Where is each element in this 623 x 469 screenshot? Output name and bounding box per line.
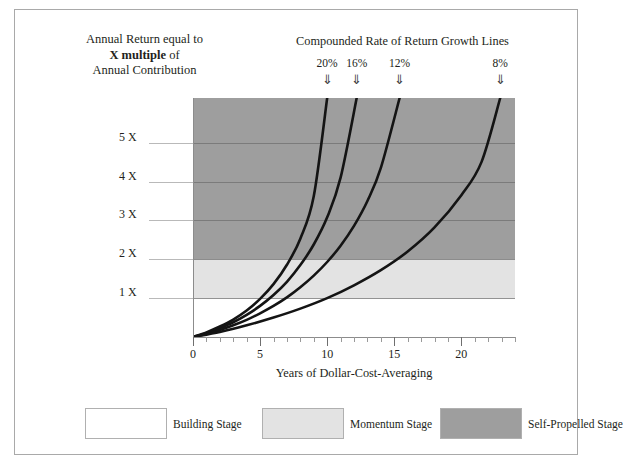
x-tick-minor [341,337,342,342]
growth-curve-16pct [193,98,357,337]
rate-arrow-16pct: ⇓ [350,73,364,86]
legend-item: Momentum Stage [262,408,432,439]
x-tick-major [327,337,328,346]
y-tick-leader [149,143,193,144]
y-axis-caption-of: of [166,48,180,62]
y-tick-label: 3 X [119,207,137,222]
x-tick-minor [475,337,476,342]
rate-arrow-12pct: ⇓ [393,73,407,86]
x-tick-minor [367,337,368,342]
growth-curve-8pct [193,98,500,337]
x-tick-label: 15 [379,347,409,362]
x-tick-minor [206,337,207,342]
legend-swatch [440,408,522,439]
y-tick-label: 1 X [119,285,137,300]
x-tick-minor [247,337,248,342]
rate-label-12pct: 12% [384,57,416,69]
x-tick-major [394,337,395,346]
x-tick-label: 5 [245,347,275,362]
x-tick-minor [515,337,516,342]
y-tick-leader [149,182,193,183]
x-tick-label: 10 [312,347,342,362]
x-tick-minor [448,337,449,342]
x-tick-minor [274,337,275,342]
y-axis-line [193,98,194,337]
plot-area [193,98,515,337]
growth-lines-caption: Compounded Rate of Return Growth Lines [270,34,535,49]
x-tick-label: 20 [446,347,476,362]
legend-swatch [262,408,344,439]
y-axis-caption-line3: Annual Contribution [57,63,232,79]
y-tick-leader [149,220,193,221]
x-tick-minor [488,337,489,342]
growth-curve-20pct [193,98,327,337]
x-tick-minor [287,337,288,342]
y-axis-caption: Annual Return equal to X multiple of Ann… [57,32,232,79]
x-tick-minor [421,337,422,342]
y-tick-label: 2 X [119,246,137,261]
chart-frame: Annual Return equal to X multiple of Ann… [14,9,578,455]
rate-label-20pct: 20% [311,57,343,69]
x-tick-major [260,337,261,346]
x-tick-minor [408,337,409,342]
rate-label-16pct: 16% [341,57,373,69]
x-tick-minor [435,337,436,342]
legend-label: Self-Propelled Stage [528,418,623,430]
rate-label-8pct: 8% [484,57,516,69]
x-tick-minor [314,337,315,342]
y-axis-caption-emphasis: X multiple [109,48,166,62]
x-tick-minor [354,337,355,342]
legend: Building StageMomentum StageSelf-Propell… [85,408,545,442]
y-tick-leader [149,298,193,299]
legend-item: Building Stage [85,408,242,439]
growth-curves [193,98,515,337]
x-tick-minor [220,337,221,342]
legend-swatch [85,408,167,439]
growth-curve-12pct [193,98,400,337]
x-tick-minor [300,337,301,342]
legend-item: Self-Propelled Stage [440,408,623,439]
y-tick-leader [149,259,193,260]
x-axis-title: Years of Dollar-Cost-Averaging [193,366,515,381]
y-axis-caption-line1: Annual Return equal to [57,32,232,48]
y-axis-caption-line2: X multiple of [57,48,232,64]
x-tick-major [193,337,194,346]
x-tick-minor [381,337,382,342]
legend-label: Momentum Stage [350,418,432,430]
legend-label: Building Stage [173,418,242,430]
x-tick-minor [502,337,503,342]
y-tick-label: 5 X [119,130,137,145]
x-tick-label: 0 [178,347,208,362]
rate-arrow-20pct: ⇓ [320,73,334,86]
x-tick-minor [233,337,234,342]
x-tick-major [461,337,462,346]
y-tick-label: 4 X [119,169,137,184]
rate-arrow-8pct: ⇓ [493,73,507,86]
